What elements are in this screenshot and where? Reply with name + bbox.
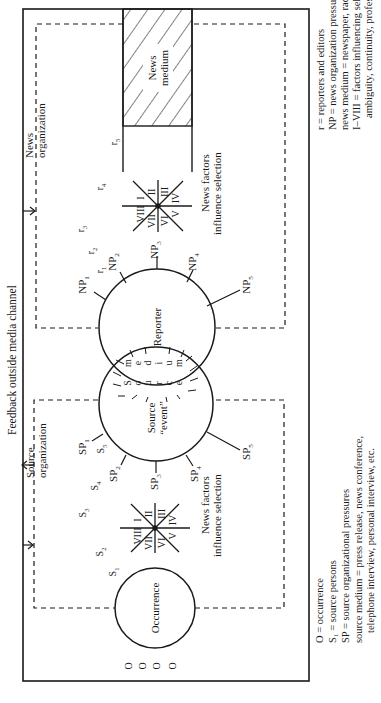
source-person-label: S2 <box>94 548 107 557</box>
legend-news-item: news medium = newspaper, radio, televisi… <box>339 0 350 130</box>
roman-numeral-news: VIII <box>135 205 146 222</box>
roman-numeral-news: IV <box>170 192 181 203</box>
news-factors-star-news <box>122 180 192 232</box>
news-medium-channel <box>123 9 192 172</box>
np-label: NP4 <box>186 253 201 271</box>
sp-label: SP5 <box>240 444 255 460</box>
source-event-label: Source <box>145 403 157 434</box>
occurrence-marker: O <box>167 662 178 669</box>
source-factors-label: News factors <box>199 476 211 534</box>
roman-numeral-source: II <box>143 511 154 518</box>
np-label: NP2 <box>106 253 121 271</box>
np-label: NP3 <box>148 241 163 259</box>
sp-label: SP2 <box>107 466 122 482</box>
news-factors-label: influence selection <box>211 152 223 235</box>
source-person-label: S4 <box>89 481 102 491</box>
np-label: NP5 <box>240 276 255 294</box>
sp-label: SP1 <box>76 439 91 455</box>
roman-numeral-source: VIII <box>132 527 143 544</box>
news-factors-label: News factors <box>199 154 211 212</box>
source-event-label: “event” <box>157 401 169 435</box>
legend-source-item: SP = source organizational pressures <box>340 489 351 643</box>
sp-label: SP3 <box>148 474 163 490</box>
occurrence-marker: O <box>137 662 148 669</box>
roman-numeral-news: VII <box>146 214 157 228</box>
source-medium-letter: u <box>142 381 153 386</box>
source-person-label: S3 <box>77 509 90 518</box>
source-organization-label: Source <box>24 447 36 478</box>
news-medium-label: medium <box>158 50 170 86</box>
source-medium-letter: e <box>173 380 184 385</box>
roman-numeral-news: III <box>159 187 170 197</box>
roman-numeral-news: V <box>170 210 181 218</box>
roman-numeral-source: VI <box>156 538 167 549</box>
legend-source-item: S₁ = source persons <box>327 560 338 643</box>
roman-numeral-source: I <box>132 518 143 521</box>
r-label: r3 <box>75 226 88 233</box>
legend-news-item: ambiguity, continuity, professional valu… <box>363 0 375 118</box>
occurrence-marker: O <box>123 662 134 669</box>
news-medium-label: News <box>146 55 158 80</box>
legend-news-item: r = reporters and editors <box>315 29 326 130</box>
r-label: r2 <box>85 248 98 255</box>
r-label: r5 <box>108 139 121 146</box>
roman-numeral-news: II <box>146 189 157 196</box>
roman-numeral-source: IV <box>167 514 178 525</box>
feedback-label: Feedback outside media channel <box>6 285 18 435</box>
r-label: r4 <box>94 183 107 190</box>
roman-numeral-news: VI <box>159 216 170 227</box>
news-factors-star-source <box>120 503 190 553</box>
news-flow-diagram: Feedback outside media channelNewsorgani… <box>0 0 381 703</box>
feedback-arrows <box>22 207 35 549</box>
occurrence-label: Occurrence <box>149 583 161 634</box>
source-person-label: S1 <box>107 568 120 577</box>
legend-source-item: source medium = press release, news conf… <box>353 436 364 643</box>
r-label: r1 <box>94 267 107 274</box>
source-organization-label: organization <box>36 423 48 478</box>
source-medium-letter: d <box>142 361 153 366</box>
np-label: NP1 <box>76 276 91 294</box>
roman-numeral-source: III <box>156 509 167 519</box>
source-factors-label: influence selection <box>211 474 223 557</box>
occurrence-marker: O <box>151 662 162 669</box>
roman-numeral-source: V <box>167 532 178 540</box>
legend-source-item: O = occurrence <box>314 578 325 643</box>
roman-numeral-source: VII <box>143 536 154 550</box>
legend-source-item: telephone interview, personal interview,… <box>365 448 376 633</box>
source-person-label: S5 <box>95 445 108 454</box>
reporter-label: Reporter <box>151 307 163 346</box>
roman-numeral-news: I <box>135 196 146 199</box>
news-organization-label: organization <box>35 103 47 158</box>
source-medium-letter: m <box>173 359 184 367</box>
news-organization-label: News <box>23 133 35 158</box>
legend-news-item: I–VIII = factors influencing selection (… <box>351 0 363 130</box>
legend-news-item: NP = news organization pressures <box>327 0 338 130</box>
